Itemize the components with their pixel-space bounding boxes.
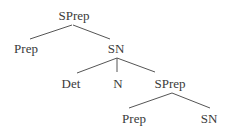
node-sn: SN [108,41,125,56]
edge-sprep-sn [172,93,210,108]
syntax-tree: SPrep Prep SN Det N SPrep Prep SN [0,0,233,132]
node-n: N [113,76,123,91]
node-sn-2: SN [201,111,218,126]
node-prep: Prep [14,41,38,56]
node-prep-2: Prep [122,111,146,126]
node-det: Det [62,76,81,91]
edge-root-sn [73,25,110,39]
node-sprep: SPrep [154,76,185,91]
node-root-sprep: SPrep [58,8,89,23]
edge-sn-det [77,58,117,73]
edge-sprep-prep [129,93,172,108]
edge-root-prep [30,25,72,39]
edge-sn-sprep [117,58,155,72]
